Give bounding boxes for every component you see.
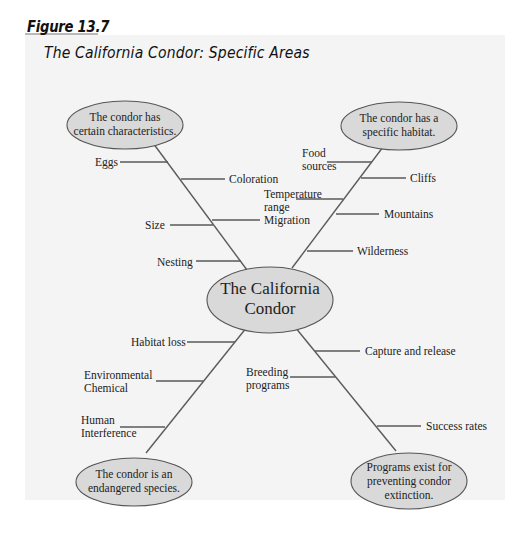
label-line: sources bbox=[302, 160, 337, 173]
label-capture-release: Capture and release bbox=[365, 345, 456, 358]
label-line: Breeding bbox=[246, 366, 289, 379]
label-cliffs: Cliffs bbox=[410, 172, 436, 185]
label-migration: Migration bbox=[264, 214, 310, 227]
label-environmental-chemical: Environmental Chemical bbox=[84, 369, 152, 395]
label-line: range bbox=[264, 201, 322, 214]
label-temperature-range: Temperature range bbox=[264, 188, 322, 214]
label-line: Human bbox=[81, 414, 137, 427]
node-line: Programs exist for bbox=[351, 460, 467, 474]
web-diagram bbox=[0, 0, 525, 533]
label-line: Chemical bbox=[84, 382, 152, 395]
label-line: Interference bbox=[81, 427, 137, 440]
node-programs-text: Programs exist for preventing condor ext… bbox=[351, 460, 467, 502]
label-food-sources: Food sources bbox=[302, 147, 337, 173]
center-node-text: The California Condor bbox=[207, 279, 333, 319]
label-line: Temperature bbox=[264, 188, 322, 201]
node-endangered-text: The condor is an endangered species. bbox=[76, 467, 192, 495]
node-line: specific habitat. bbox=[341, 125, 457, 139]
label-line: Food bbox=[302, 147, 337, 160]
label-nesting: Nesting bbox=[157, 256, 193, 269]
label-eggs: Eggs bbox=[95, 156, 118, 169]
center-line: The California bbox=[207, 279, 333, 299]
label-mountains: Mountains bbox=[384, 208, 433, 221]
label-line: programs bbox=[246, 379, 289, 392]
node-characteristics-text: The condor has certain characteristics. bbox=[67, 110, 183, 138]
node-line: preventing condor bbox=[351, 474, 467, 488]
label-size: Size bbox=[145, 219, 165, 232]
node-line: endangered species. bbox=[76, 481, 192, 495]
label-human-interference: Human Interference bbox=[81, 414, 137, 440]
node-line: The condor has a bbox=[341, 111, 457, 125]
node-line: The condor is an bbox=[76, 467, 192, 481]
label-success-rates: Success rates bbox=[426, 420, 487, 433]
node-line: extinction. bbox=[351, 488, 467, 502]
label-coloration: Coloration bbox=[229, 173, 278, 186]
node-line: The condor has bbox=[67, 110, 183, 124]
node-habitat-text: The condor has a specific habitat. bbox=[341, 111, 457, 139]
label-wilderness: Wilderness bbox=[357, 245, 408, 258]
center-line: Condor bbox=[207, 299, 333, 319]
node-line: certain characteristics. bbox=[67, 124, 183, 138]
label-line: Environmental bbox=[84, 369, 152, 382]
label-habitat-loss: Habitat loss bbox=[131, 336, 186, 349]
label-breeding-programs: Breeding programs bbox=[246, 366, 289, 392]
